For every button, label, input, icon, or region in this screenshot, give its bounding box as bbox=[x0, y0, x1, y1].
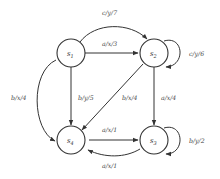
label-a-x-1-top: a/x/1 bbox=[102, 126, 117, 133]
state-diagram: s1 s2 s4 s3 c/y/7 a/x/3 c/y/6 b/x/4 b/y/… bbox=[0, 0, 220, 179]
state-s2: s2 bbox=[140, 39, 168, 67]
state-s1: s1 bbox=[57, 39, 85, 67]
state-s3: s3 bbox=[140, 126, 168, 154]
edge-s3-s4-a-x-1 bbox=[88, 149, 140, 156]
label-b-x-4-left: b/x/4 bbox=[11, 94, 27, 101]
label-a-x-3: a/x/3 bbox=[102, 40, 117, 47]
label-b-y-5: b/y/5 bbox=[78, 94, 94, 102]
edge-s1-s4-b-x-4 bbox=[37, 60, 56, 141]
label-a-x-4: a/x/4 bbox=[161, 94, 176, 101]
label-c-y-6: c/y/6 bbox=[189, 50, 204, 58]
label-b-y-2: b/y/2 bbox=[189, 137, 205, 145]
label-b-x-4-diag: b/x/4 bbox=[122, 94, 138, 101]
label-a-x-1-bottom: a/x/1 bbox=[102, 162, 117, 169]
state-s4: s4 bbox=[57, 126, 85, 154]
label-c-y-7: c/y/7 bbox=[102, 9, 117, 17]
